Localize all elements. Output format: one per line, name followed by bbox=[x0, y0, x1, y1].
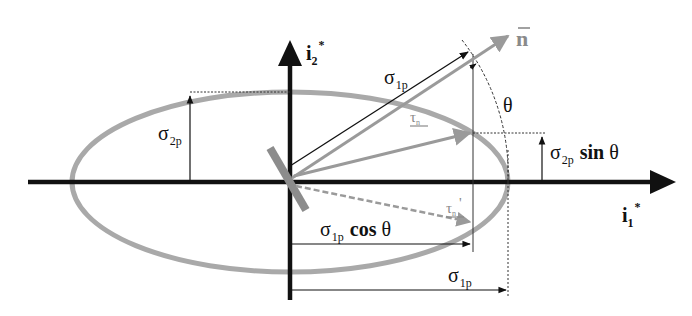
stress-ellipse-diagram: i2* i1* n σ1p θ σ2p τn τn' σ2psinθ σ1pco… bbox=[0, 0, 692, 316]
axis-i1 bbox=[28, 170, 676, 194]
label-theta: θ bbox=[503, 94, 513, 116]
svg-text:n: n bbox=[516, 26, 528, 51]
label-sigma-1p-bottom: σ1p bbox=[448, 264, 472, 290]
label-normal-n: n bbox=[516, 26, 530, 51]
tau-n-prime-vector bbox=[296, 186, 470, 222]
tau-n-vector bbox=[294, 133, 470, 176]
label-sigma-1p-vector: σ1p bbox=[384, 66, 408, 92]
sigma-1p-vector bbox=[290, 52, 468, 166]
sigma-2p-dimension bbox=[190, 92, 290, 182]
label-i1: i1* bbox=[622, 200, 641, 230]
label-i2: i2* bbox=[306, 38, 325, 68]
label-sigma-2p-sin-theta: σ2psinθ bbox=[550, 141, 619, 167]
normal-vector bbox=[292, 36, 508, 178]
svg-text:τn': τn' bbox=[446, 195, 462, 218]
label-sigma-1p-cos-theta: σ1pcosθ bbox=[320, 218, 391, 244]
label-tau-n-prime: τn' bbox=[446, 195, 464, 218]
label-sigma-2p: σ2p bbox=[158, 122, 182, 148]
